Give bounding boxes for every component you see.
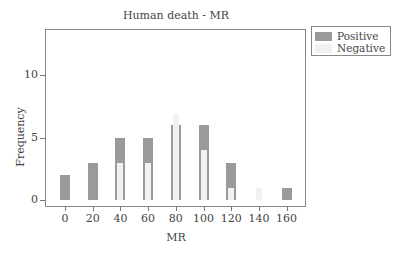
legend-label-positive: Positive [337, 30, 378, 42]
bar-positive-160 [282, 188, 292, 201]
legend-swatch-positive [315, 32, 332, 41]
legend: Positive Negative [311, 26, 391, 56]
x-tick-60: 60 [133, 212, 163, 225]
x-axis-label: MR [45, 231, 307, 244]
x-tickmark-60 [148, 207, 149, 211]
bar-negative-100 [201, 150, 207, 200]
legend-item-positive: Positive [315, 30, 378, 42]
x-tick-160: 160 [272, 212, 302, 225]
chart-title: Human death - MR [45, 9, 307, 22]
x-tickmark-140 [259, 207, 260, 211]
bar-negative-140 [256, 188, 262, 201]
bar-negative-40 [117, 163, 123, 201]
legend-item-negative: Negative [315, 42, 385, 54]
legend-label-negative: Negative [337, 42, 385, 54]
x-tick-20: 20 [78, 212, 108, 225]
x-tickmark-80 [176, 207, 177, 211]
legend-swatch-negative [315, 44, 332, 53]
x-tick-40: 40 [105, 212, 135, 225]
y-tick-0: 0 [14, 193, 38, 206]
x-tick-0: 0 [50, 212, 80, 225]
y-tick-10: 10 [14, 68, 38, 81]
x-tick-120: 120 [216, 212, 246, 225]
bar-negative-80 [173, 113, 179, 201]
x-tickmark-160 [287, 207, 288, 211]
bar-positive-0 [60, 175, 70, 200]
x-tick-100: 100 [189, 212, 219, 225]
bar-positive-20 [88, 163, 98, 201]
x-tickmark-120 [231, 207, 232, 211]
x-tickmark-0 [65, 207, 66, 211]
x-tickmark-20 [93, 207, 94, 211]
y-tick-5: 5 [14, 131, 38, 144]
x-tick-80: 80 [161, 212, 191, 225]
x-tickmark-40 [120, 207, 121, 211]
bar-negative-120 [228, 188, 234, 201]
x-tick-140: 140 [244, 212, 274, 225]
x-tickmark-100 [204, 207, 205, 211]
bar-negative-60 [145, 163, 151, 201]
